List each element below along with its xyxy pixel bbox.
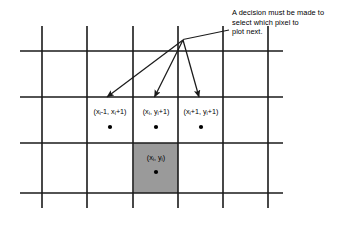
label-right-candidate: (xi+1, yi+1): [184, 108, 219, 116]
annotation-line-1: A decision must be made to: [232, 8, 348, 18]
label-right-candidate-suffix: +1): [208, 107, 219, 116]
label-left-candidate-mid: -1, x: [101, 107, 115, 116]
label-center-candidate-mid: , y: [150, 107, 158, 116]
dot-left-candidate: [108, 125, 112, 129]
label-current-pixel-mid: , y: [154, 153, 162, 162]
annotation-line-3: plot next.: [232, 27, 348, 37]
shaded-pixel-cell: [134, 143, 179, 193]
annotation-leader-line: [183, 30, 229, 40]
dot-current-pixel: [154, 170, 158, 174]
annotation-line-2: select which pixel to: [232, 18, 348, 28]
decision-arrows: [107, 40, 199, 97]
label-center-candidate-suffix: +1): [159, 107, 170, 116]
label-current-pixel-sub2: i: [162, 156, 163, 162]
label-left-candidate-suffix: +1): [116, 107, 127, 116]
label-current-pixel-suffix: ): [163, 153, 165, 162]
label-center-candidate-sub2: i: [158, 110, 159, 116]
dot-right-candidate: [199, 125, 203, 129]
label-current-pixel: (xi, yi): [147, 154, 165, 162]
label-right-candidate-mid: +1, y: [191, 107, 207, 116]
annotation-text: A decision must be made to select which …: [232, 8, 348, 37]
pixel-decision-diagram: A decision must be made to select which …: [0, 0, 351, 229]
label-left-candidate: (xi-1, xi+1): [94, 108, 127, 116]
label-center-candidate: (xi, yi+1): [143, 108, 170, 116]
arrow-to-left-candidate: [107, 40, 183, 97]
arrow-to-right-candidate: [183, 40, 199, 97]
dot-center-candidate: [154, 125, 158, 129]
